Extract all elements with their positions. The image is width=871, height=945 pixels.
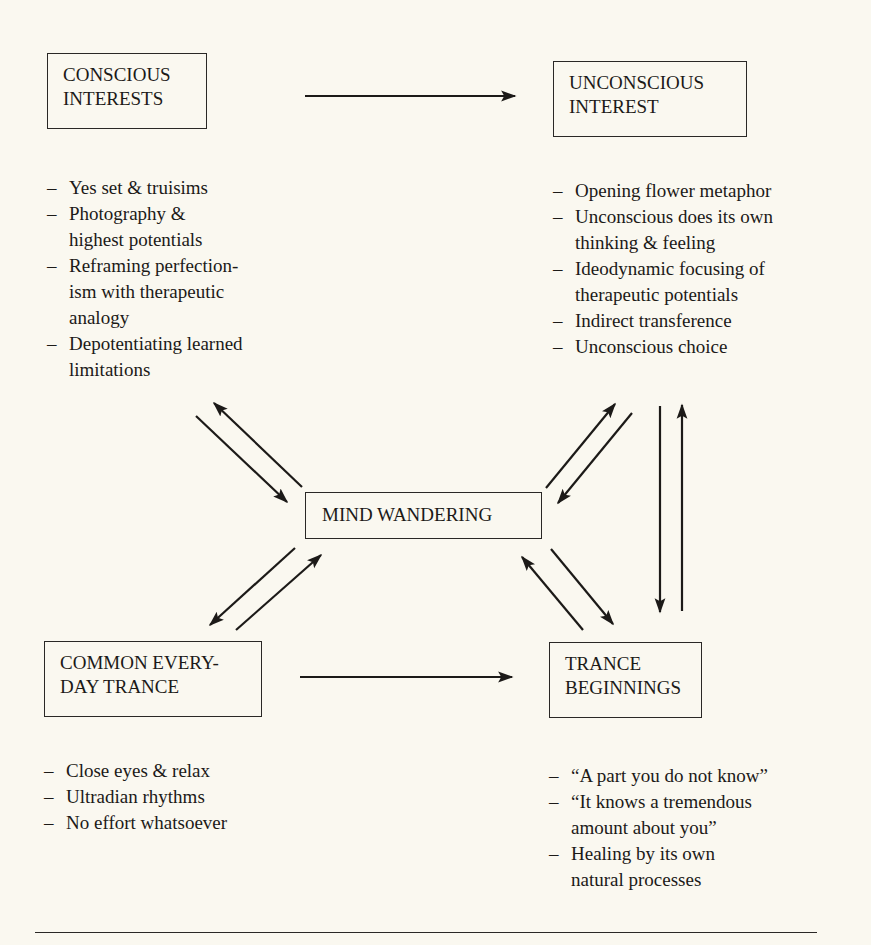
arrow-mind-to-everyday [210,548,295,625]
arrow-unconscious-to-mind [558,413,632,503]
bottom-rule-divider [35,932,817,933]
arrow-everyday-to-mind [236,555,321,630]
arrows-layer [0,0,871,945]
arrow-trance-beginnings-to-mind [522,557,583,630]
arrow-mind-to-trance-beginnings [551,549,613,624]
